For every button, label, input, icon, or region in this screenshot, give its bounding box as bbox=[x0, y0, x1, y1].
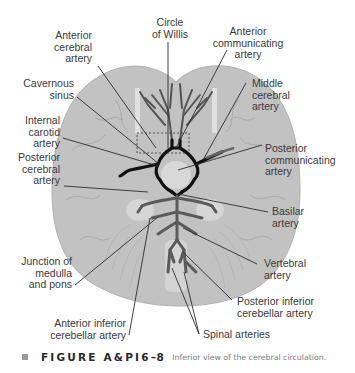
label-middle-cerebral-artery: Middle cerebral artery bbox=[252, 78, 312, 113]
pituitary-region bbox=[161, 161, 191, 189]
label-posterior-cerebral-artery: Posterior cerebral artery bbox=[8, 152, 60, 187]
figure-number-tail: –8 bbox=[151, 351, 165, 363]
label-anterior-inferior-cerebellar-artery: Anterior inferior cerebellar artery bbox=[20, 318, 126, 341]
label-posterior-communicating-artery: Posterior communicating artery bbox=[265, 143, 355, 178]
label-anterior-communicating-artery: Anterior communicating artery bbox=[200, 26, 296, 61]
label-internal-carotid-artery: Internal carotid artery bbox=[10, 115, 60, 150]
label-circle-of-willis: Circle of Willis bbox=[148, 17, 192, 40]
caption-text: Inferior view of the cerebral circulatio… bbox=[172, 353, 326, 362]
label-basilar-artery: Basilar artery bbox=[272, 206, 322, 229]
olfactory-tract-left bbox=[135, 88, 140, 133]
figure-number-main: FIGURE A&PI6 bbox=[41, 351, 151, 363]
label-cavernous-sinus: Cavernous sinus bbox=[10, 78, 74, 101]
olfactory-tract-right bbox=[212, 88, 217, 133]
label-junction-of-medulla-and-pons: Junction of medulla and pons bbox=[8, 256, 72, 291]
figure-number: FIGURE A&PI6–8 bbox=[41, 351, 164, 363]
figure-caption: FIGURE A&PI6–8 Inferior view of the cere… bbox=[22, 350, 352, 364]
cerebral-circulation-figure: Circle of Willis Anterior cerebral arter… bbox=[0, 0, 355, 340]
label-posterior-inferior-cerebellar-artery: Posterior inferior cerebellar artery bbox=[237, 296, 352, 319]
label-spinal-arteries: Spinal arteries bbox=[203, 329, 303, 341]
caption-bullet bbox=[22, 354, 28, 360]
label-vertebral-artery: Vertebral artery bbox=[264, 258, 324, 281]
label-anterior-cerebral-artery: Anterior cerebral artery bbox=[36, 30, 92, 65]
